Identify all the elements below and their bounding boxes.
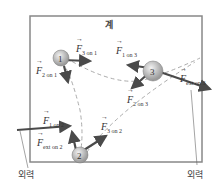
label-fexton3: Fext on 3 xyxy=(180,74,205,86)
external-force-label-left: 외력 xyxy=(18,168,34,181)
label-f2on1: F2 on 1 xyxy=(36,66,57,78)
svg-text:2: 2 xyxy=(77,151,82,161)
label-f1on2: F1 on 2 xyxy=(43,116,64,128)
label-f2on3: F2 on 3 xyxy=(127,95,148,107)
label-f3on2: F3 on 2 xyxy=(101,122,122,134)
label-f1on3: F1 on 3 xyxy=(116,46,137,58)
external-force-label-right: 외력 xyxy=(187,168,203,181)
label-f3on1: F3 on 1 xyxy=(76,44,97,56)
svg-text:3: 3 xyxy=(150,67,155,77)
label-fexton2: Fext on 2 xyxy=(37,138,62,150)
svg-text:1: 1 xyxy=(58,54,63,64)
system-label: 계 xyxy=(105,18,113,31)
